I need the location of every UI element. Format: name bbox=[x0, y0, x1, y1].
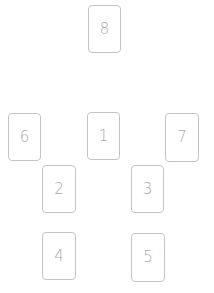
card-number: 5 bbox=[143, 250, 153, 265]
card-position-8[interactable]: 8 bbox=[88, 5, 121, 53]
card-position-2[interactable]: 2 bbox=[42, 165, 76, 213]
card-number: 3 bbox=[143, 182, 153, 197]
card-number: 7 bbox=[177, 130, 187, 145]
card-number: 2 bbox=[54, 182, 64, 197]
card-position-1[interactable]: 1 bbox=[87, 112, 120, 160]
card-position-4[interactable]: 4 bbox=[42, 232, 76, 280]
card-position-5[interactable]: 5 bbox=[131, 233, 165, 282]
card-number: 1 bbox=[99, 129, 109, 144]
card-position-3[interactable]: 3 bbox=[131, 165, 164, 213]
card-position-7[interactable]: 7 bbox=[165, 113, 199, 162]
card-number: 8 bbox=[100, 22, 110, 37]
card-number: 4 bbox=[54, 249, 64, 264]
card-number: 6 bbox=[20, 130, 30, 145]
card-position-6[interactable]: 6 bbox=[8, 113, 41, 161]
